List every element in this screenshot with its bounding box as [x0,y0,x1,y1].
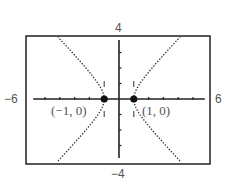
vertex-point-right [130,95,137,102]
ymax-label: 4 [115,22,122,34]
xmax-label: 6 [215,93,222,105]
ymin-label: −4 [111,168,125,180]
axes [33,40,205,158]
vertex-label-right: (1, 0) [142,104,170,117]
viewing-window-frame [26,36,210,164]
vertex-label-left: (−1, 0) [51,104,87,117]
xmin-label: −6 [4,93,18,105]
vertex-point-left [101,95,108,102]
